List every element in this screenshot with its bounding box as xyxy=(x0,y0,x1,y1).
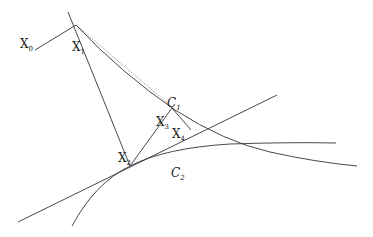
label-c2: C2 xyxy=(171,167,185,182)
label-x3: X3 xyxy=(156,116,169,131)
label-x1: X1 xyxy=(72,41,85,56)
segment-x0-x1 xyxy=(35,25,76,50)
diagram-canvas xyxy=(0,0,373,237)
label-x2: X2 xyxy=(118,152,131,167)
segment-x1-x2 xyxy=(68,12,130,166)
label-x4: X4 xyxy=(172,128,185,143)
label-x0: X0 xyxy=(20,38,33,53)
curve-c2 xyxy=(72,143,336,226)
dotted-line-x1-x3 xyxy=(76,25,172,107)
label-c1: C1 xyxy=(167,97,181,112)
